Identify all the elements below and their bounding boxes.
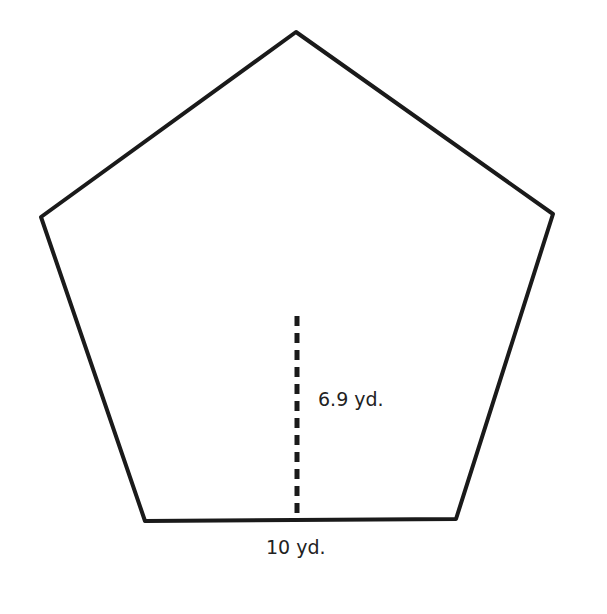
- diagram-canvas: 6.9 yd. 10 yd.: [0, 0, 607, 614]
- pentagon-diagram: [0, 0, 607, 614]
- side-length-label: 10 yd.: [266, 536, 326, 558]
- pentagon-outline: [41, 32, 553, 521]
- apothem-label: 6.9 yd.: [318, 388, 384, 410]
